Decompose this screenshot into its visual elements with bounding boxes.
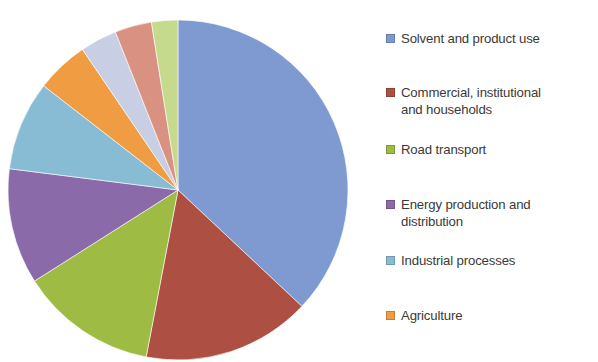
legend-item[interactable]: Commercial, institutional and households (386, 85, 598, 118)
legend-swatch-icon (386, 256, 395, 265)
chart-legend: Solvent and product useCommercial, insti… (386, 0, 598, 362)
pie-chart-figure: Solvent and product useCommercial, insti… (0, 0, 598, 362)
legend-item-label: Energy production and distribution (401, 197, 531, 230)
legend-swatch-icon (386, 34, 395, 43)
legend-item[interactable]: Solvent and product use (386, 31, 598, 48)
legend-item[interactable]: Agriculture (386, 308, 598, 325)
legend-item[interactable]: Industrial processes (386, 253, 598, 270)
legend-item[interactable]: Energy production and distribution (386, 197, 598, 230)
legend-item-label: Industrial processes (401, 253, 515, 270)
legend-swatch-icon (386, 88, 395, 97)
legend-swatch-icon (386, 311, 395, 320)
legend-item-label: Commercial, institutional and households (401, 85, 541, 118)
pie-plot-area (0, 0, 380, 362)
legend-swatch-icon (386, 200, 395, 209)
legend-swatch-icon (386, 145, 395, 154)
legend-item-label: Road transport (401, 142, 486, 159)
legend-item-label: Agriculture (401, 308, 462, 325)
legend-item[interactable]: Road transport (386, 142, 598, 159)
legend-item-label: Solvent and product use (401, 31, 540, 48)
pie-svg (0, 0, 380, 362)
